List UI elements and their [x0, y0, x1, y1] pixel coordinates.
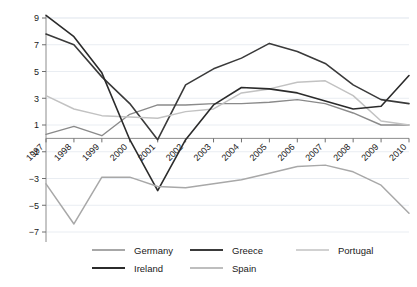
chart-canvas: 97531−1−3−5−7199719981999200020012002200… [0, 0, 417, 287]
x-axis-label: 2010 [387, 142, 408, 163]
y-axis-label: 9 [34, 13, 39, 23]
line-chart: 97531−1−3−5−7199719981999200020012002200… [0, 0, 417, 287]
legend-label-greece: Greece [232, 245, 263, 256]
series-line-germany [46, 100, 409, 136]
x-axis-label: 2004 [220, 142, 241, 163]
legend-label-ireland: Ireland [134, 263, 163, 274]
x-axis-label: 2003 [192, 142, 213, 163]
x-axis-label: 2001 [136, 142, 157, 163]
x-axis-label: 1998 [52, 142, 73, 163]
legend-label-spain: Spain [232, 263, 256, 274]
y-axis-label: 1 [34, 120, 39, 130]
x-axis-label: 2007 [303, 142, 324, 163]
x-axis-label: 2009 [359, 142, 380, 163]
y-axis-label: −7 [29, 227, 39, 237]
x-axis-label: 1999 [80, 142, 101, 163]
x-axis-label: 2005 [248, 142, 269, 163]
y-axis-label: −3 [29, 174, 39, 184]
x-axis-label: 2008 [331, 142, 352, 163]
y-axis-label: 7 [34, 40, 39, 50]
series-line-spain [46, 165, 409, 224]
x-axis-label: 2000 [108, 142, 129, 163]
legend-label-portugal: Portugal [338, 245, 373, 256]
series-line-greece [46, 34, 409, 140]
x-axis-label: 2006 [275, 142, 296, 163]
y-axis-label: 5 [34, 67, 39, 77]
legend-label-germany: Germany [134, 245, 173, 256]
x-axis-label: 1997 [24, 142, 45, 163]
y-axis-label: −5 [29, 201, 39, 211]
y-axis-label: 3 [34, 94, 39, 104]
